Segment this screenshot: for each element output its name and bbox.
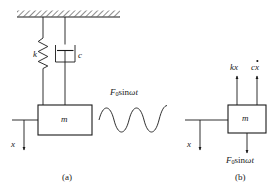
spring-force-variable: x (234, 62, 238, 72)
spring-force-label: kx (230, 63, 238, 72)
damping-coefficient-label: c (78, 51, 82, 60)
spring-constant-label: k (33, 50, 37, 59)
caption-b: (b) (235, 173, 246, 182)
displacement-label-a: x (11, 140, 15, 149)
spring-coil-icon (38, 38, 48, 69)
displacement-label-b: x (187, 140, 191, 149)
excitation-force-label-a: F0sinωt (110, 88, 138, 97)
displacement-reference-b (185, 120, 228, 150)
excitation-sine-wave (99, 106, 167, 133)
hatched-ground-support-icon (17, 11, 120, 18)
sine-function-b: sin (235, 155, 246, 165)
time-derivative-dot-icon (256, 60, 258, 62)
sine-function-a: sin (119, 87, 130, 97)
damping-force-label: cx (251, 63, 259, 72)
damping-force-variable-dotted: x (255, 63, 259, 72)
panel-a-graphics (12, 11, 167, 151)
displacement-reference-a (12, 120, 38, 150)
caption-a: (a) (62, 173, 72, 182)
mass-label-a: m (61, 115, 68, 124)
panel-b-graphics (185, 76, 266, 153)
omega-t-b: ωt (245, 155, 254, 165)
damping-force-variable: x (255, 62, 259, 72)
mass-label-b: m (242, 114, 249, 123)
vibration-system-figure: k c m x F0sinωt (a) kx cx m x F0sinωt (b… (0, 0, 280, 193)
applied-force-label-b: F0sinωt (226, 156, 254, 165)
omega-t-a: ωt (129, 87, 138, 97)
